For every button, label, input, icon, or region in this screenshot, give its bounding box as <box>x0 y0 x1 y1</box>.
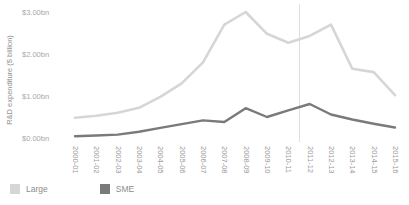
x-tick-label: 2006-07 <box>198 146 208 186</box>
large-series-line <box>75 12 395 118</box>
x-tick-label: 2012-13 <box>326 146 336 186</box>
sme-series-line <box>75 104 395 136</box>
legend-item-large: Large <box>10 184 48 194</box>
x-tick-label: 2003-04 <box>134 146 144 186</box>
x-tick-label: 2014-15 <box>369 146 379 186</box>
legend: Large SME <box>10 184 134 194</box>
x-tick-label: 2005-06 <box>177 146 187 186</box>
legend-item-sme: SME <box>100 184 134 194</box>
x-tick-label: 2007-08 <box>219 146 229 186</box>
x-tick-label: 2008-09 <box>241 146 251 186</box>
x-tick-label: 2015-16 <box>390 146 400 186</box>
large-legend-swatch-icon <box>10 184 20 194</box>
sme-legend-swatch-icon <box>100 184 110 194</box>
x-tick-label: 2010-11 <box>283 146 293 186</box>
x-tick-label: 2009-10 <box>262 146 272 186</box>
x-tick-label: 2002-03 <box>113 146 123 186</box>
x-tick-label: 2000-01 <box>70 146 80 186</box>
x-tick-label: 2001-02 <box>91 146 101 186</box>
x-tick-label: 2011-12 <box>305 146 315 186</box>
x-tick-label: 2013-14 <box>347 146 357 186</box>
rd-expenditure-chart: R&D expenditure ($ billion) $0.00bn$1.00… <box>0 0 409 205</box>
large-legend-label: Large <box>26 184 48 194</box>
sme-legend-label: SME <box>116 184 134 194</box>
x-tick-label: 2004-05 <box>155 146 165 186</box>
